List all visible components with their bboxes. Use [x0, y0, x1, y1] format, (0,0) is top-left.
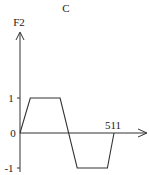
- panel-label: C: [62, 2, 69, 14]
- y-axis-label: F2: [13, 16, 25, 28]
- chart: C F2 1 0 -1 511: [0, 0, 149, 175]
- x-tick-label-511: 511: [105, 119, 121, 131]
- y-tick-label-minus-1: -1: [4, 162, 13, 174]
- y-tick-label-0: 0: [10, 127, 16, 139]
- y-tick-label-1: 1: [8, 92, 14, 104]
